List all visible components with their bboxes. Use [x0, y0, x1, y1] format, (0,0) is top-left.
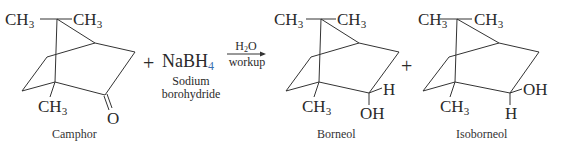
borneol-methyl-bottom: CH3: [302, 98, 331, 120]
arrow-condition-above: H2O: [229, 40, 263, 56]
borneol-hydroxyl: OH: [360, 105, 385, 122]
camphor-carbonyl-oxygen: O: [107, 110, 119, 127]
reagent-formula: NaBH4: [162, 52, 214, 75]
isoborneol-caption: Isoborneol: [456, 128, 507, 140]
borneol-hydrogen: H: [383, 81, 395, 98]
camphor-methyl-bottom: CH3: [38, 98, 67, 120]
isoborneol-hydroxyl: OH: [523, 81, 548, 98]
borneol-caption: Borneol: [317, 128, 356, 140]
isoborneol-hydrogen: H: [505, 105, 517, 122]
reagent-name-line2: borohydride: [157, 88, 225, 101]
arrow-condition-below: workup: [225, 56, 269, 69]
isoborneol-methyl-right: CH3: [474, 11, 503, 33]
plus-sign: +: [143, 53, 154, 73]
camphor-methyl-left: CH3: [5, 11, 34, 33]
plus-sign: +: [401, 56, 412, 76]
isoborneol-methyl-left: CH3: [418, 11, 447, 33]
borneol-methyl-right: CH3: [337, 11, 366, 33]
camphor-methyl-right: CH3: [73, 11, 102, 33]
camphor-caption: Camphor: [52, 128, 97, 140]
isoborneol-methyl-bottom: CH3: [440, 98, 469, 120]
borneol-methyl-left: CH3: [274, 11, 303, 33]
